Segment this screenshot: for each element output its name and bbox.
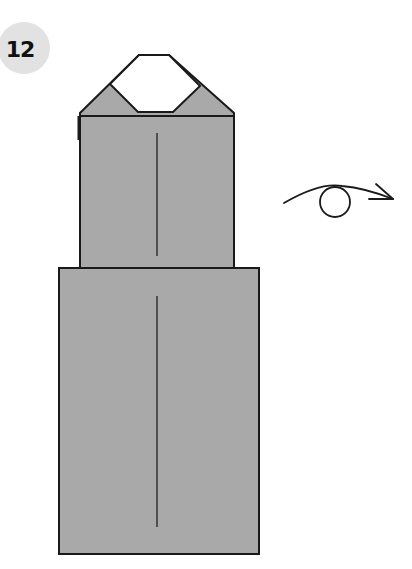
lower-rectangle bbox=[59, 268, 259, 554]
origami-diagram bbox=[0, 0, 412, 569]
turn-over-arrow-icon bbox=[284, 184, 393, 217]
